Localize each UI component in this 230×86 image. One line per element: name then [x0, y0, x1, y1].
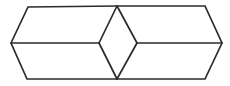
figure-canvas [0, 0, 230, 86]
geometric-line-figure [0, 0, 230, 86]
